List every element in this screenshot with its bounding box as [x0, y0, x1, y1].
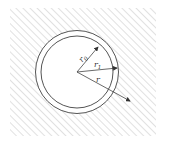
annulus-diagram: r0 r1 r	[0, 0, 170, 144]
